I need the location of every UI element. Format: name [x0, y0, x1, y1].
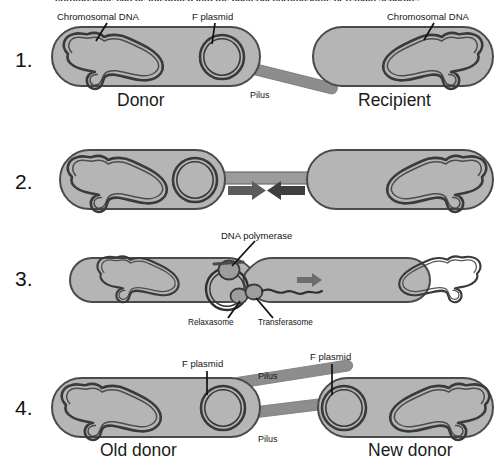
dna-polymerase-cap [214, 262, 243, 264]
step-number-4: 4. [15, 396, 33, 420]
step-number-2: 2. [15, 170, 33, 194]
step-number-1: 1. [15, 48, 33, 72]
label-donor-cell: Donor [117, 90, 165, 111]
label-relaxasome: Relaxasome [188, 318, 234, 327]
label-pilus-step1: Pilus [250, 90, 270, 100]
step-number-3: 3. [15, 267, 33, 291]
recipient-cell-body [244, 258, 431, 302]
label-old-donor-cell: Old donor [100, 440, 177, 461]
label-chromosomal-dna-recipient: Chromosomal DNA [387, 11, 469, 22]
step-3-group [70, 241, 480, 318]
label-dna-polymerase: DNA polymerase [221, 230, 292, 241]
label-f-plasmid-old-donor: F plasmid [182, 358, 223, 369]
conjugation-bridge-step2 [224, 172, 308, 184]
recipient-cell-body [307, 150, 493, 209]
bacterial-conjugation-diagram: chromosome can be integrated into the ba… [0, 0, 500, 471]
label-recipient-cell: Recipient [358, 90, 431, 111]
recipient-cell-body [313, 27, 493, 86]
label-pilus-upper: Pilus [258, 371, 278, 381]
step-1-group [52, 23, 493, 95]
label-f-plasmid-donor: F plasmid [192, 11, 233, 22]
transferasome-blob [246, 285, 263, 300]
label-new-donor-cell: New donor [368, 440, 453, 461]
label-f-plasmid-new-donor: F plasmid [310, 351, 351, 362]
step-2-group [60, 150, 493, 212]
label-transferasome: Transferasome [258, 318, 313, 327]
label-pilus-lower: Pilus [258, 434, 278, 444]
label-chromosomal-dna-donor: Chromosomal DNA [57, 11, 139, 22]
